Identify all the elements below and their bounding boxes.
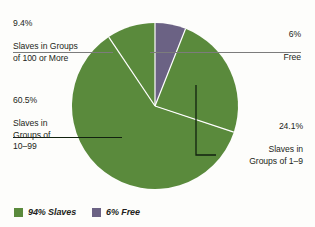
callout-mid-groups-description: Slaves in Groups of 10–99 (13, 118, 123, 152)
legend-swatch-slaves-icon (14, 208, 23, 217)
callout-large-groups-percent: 9.4% (13, 18, 133, 29)
callout-free-percent: 6% (181, 29, 301, 40)
callout-free: 6% Free (181, 18, 301, 75)
legend-swatch-free-icon (92, 208, 101, 217)
callout-large-groups-description: Slaves in Groups of 100 or More (13, 41, 133, 64)
callout-small-groups-description: Slaves in Groups of 1–9 (173, 144, 303, 167)
callout-small-groups-percent: 24.1% (173, 121, 303, 132)
legend-item-free: 6% Free (92, 207, 140, 217)
pie-chart-figure: 9.4% Slaves in Groups of 100 or More 60.… (0, 0, 315, 227)
callout-mid-groups: 60.5% Slaves in Groups of 10–99 (13, 84, 123, 164)
chart-legend: 94% Slaves 6% Free (14, 207, 140, 217)
legend-label-slaves: 94% Slaves (28, 207, 76, 217)
callout-large-groups: 9.4% Slaves in Groups of 100 or More (13, 7, 133, 75)
callout-small-groups: 24.1% Slaves in Groups of 1–9 (173, 110, 303, 178)
callout-free-description: Free (181, 52, 301, 63)
legend-item-slaves: 94% Slaves (14, 207, 76, 217)
callout-mid-groups-percent: 60.5% (13, 95, 123, 106)
legend-label-free: 6% Free (106, 207, 140, 217)
